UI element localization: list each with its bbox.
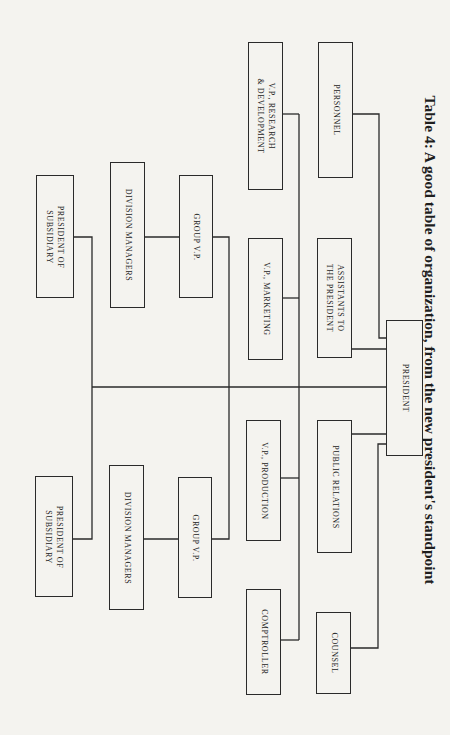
vp-marketing-box: V.P., MARKETING	[248, 238, 283, 360]
group-vp-label: GROUP V.P.	[190, 514, 201, 561]
personnel-box: PERSONNEL	[318, 42, 353, 178]
president-box: PRESIDENT	[386, 320, 423, 456]
comptroller-label: COMPTROLLER	[258, 609, 269, 674]
group-vp-box-top: GROUP V.P.	[179, 175, 213, 298]
vp-marketing-label: V.P., MARKETING	[260, 262, 271, 335]
vp-production-box: V.P., PRODUCTION	[246, 420, 281, 541]
division-managers-label: DIVISION MANAGERS	[121, 491, 132, 584]
counsel-label: COUNSEL	[328, 632, 339, 673]
subsidiary-president-label: PRESIDENT OF SUBSIDIARY	[43, 505, 65, 567]
connector-lines	[0, 0, 450, 735]
assistants-label: ASSISTANTS TO THE PRESIDENT	[324, 264, 346, 332]
public-relations-box: PUBLIC RELATIONS	[317, 420, 352, 553]
personnel-label: PERSONNEL	[330, 84, 341, 136]
group-vp-label: GROUP V.P.	[191, 213, 202, 260]
subsidiary-president-box-top: PRESIDENT OF SUBSIDIARY	[36, 175, 74, 298]
vp-research-label: V.P., RESEARCH & DEVELOPMENT	[255, 78, 277, 153]
division-managers-box-top: DIVISION MANAGERS	[110, 162, 145, 308]
comptroller-box: COMPTROLLER	[246, 589, 281, 695]
division-managers-box-bottom: DIVISION MANAGERS	[109, 465, 144, 610]
public-relations-label: PUBLIC RELATIONS	[329, 445, 340, 529]
subsidiary-president-label: PRESIDENT OF SUBSIDIARY	[44, 205, 66, 267]
subsidiary-president-box-bottom: PRESIDENT OF SUBSIDIARY	[35, 476, 73, 597]
vp-research-box: V.P., RESEARCH & DEVELOPMENT	[248, 42, 283, 190]
division-managers-label: DIVISION MANAGERS	[122, 189, 133, 282]
assistants-box: ASSISTANTS TO THE PRESIDENT	[317, 238, 352, 358]
counsel-box: COUNSEL	[316, 612, 351, 694]
vp-production-label: V.P., PRODUCTION	[258, 442, 269, 519]
president-label: PRESIDENT	[399, 364, 410, 413]
group-vp-box-bottom: GROUP V.P.	[178, 477, 212, 598]
